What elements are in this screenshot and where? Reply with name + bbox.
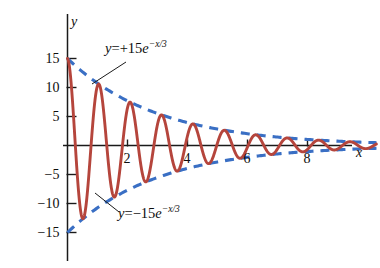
upper-label-exponent: −x/3 — [149, 39, 167, 49]
lower-envelope-curve — [68, 148, 377, 232]
y-tick-label: 15 — [20, 52, 60, 66]
damped-oscillation-curve — [68, 59, 377, 219]
lower-envelope-label: y=−15e−x/3 — [118, 205, 180, 220]
lower-label-sign: − — [133, 205, 141, 221]
y-tick-label: 10 — [20, 81, 60, 95]
x-tick-label: 4 — [184, 152, 191, 166]
y-tick-label: −5 — [20, 168, 60, 182]
upper-label-coefficient: 15 — [128, 40, 143, 56]
upper-label-sign: + — [120, 40, 128, 56]
lower-label-eq: = — [124, 205, 132, 221]
y-tick-label: 5 — [20, 110, 60, 124]
upper-label-leader-line — [92, 62, 126, 84]
lower-label-coefficient: 15 — [141, 205, 156, 221]
y-axis-label: y — [71, 15, 77, 29]
upper-label-eq: = — [111, 40, 119, 56]
y-tick-label: −10 — [20, 197, 60, 211]
upper-envelope-label: y=+15e−x/3 — [105, 40, 167, 55]
y-tick-label: −15 — [20, 226, 60, 240]
x-tick-label: 6 — [244, 152, 251, 166]
lower-label-exponent: −x/3 — [162, 204, 180, 214]
x-axis-label: x — [356, 146, 362, 160]
x-tick-label: 8 — [304, 152, 311, 166]
figure: y x 2468 15105−5−10−15 y=+15e−x/3 y=−15e… — [0, 0, 380, 268]
x-tick-label: 2 — [124, 152, 131, 166]
